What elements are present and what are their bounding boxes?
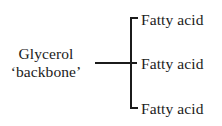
triglyceride-diagram: Glycerol ‘backbone’ Fatty acid Fatty aci… xyxy=(0,0,222,126)
glycerol-label-line-1: Glycerol xyxy=(0,45,92,63)
bracket-bottom-stub xyxy=(130,107,138,109)
fatty-acid-label-2: Fatty acid xyxy=(141,55,204,72)
bracket-top-stub xyxy=(130,17,138,19)
bracket-vertical-line xyxy=(130,17,132,109)
fatty-acid-label-1: Fatty acid xyxy=(141,11,204,28)
glycerol-label-line-2: ‘backbone’ xyxy=(0,63,92,81)
glycerol-backbone-label: Glycerol ‘backbone’ xyxy=(0,45,92,81)
fatty-acid-label-3: Fatty acid xyxy=(141,100,204,117)
